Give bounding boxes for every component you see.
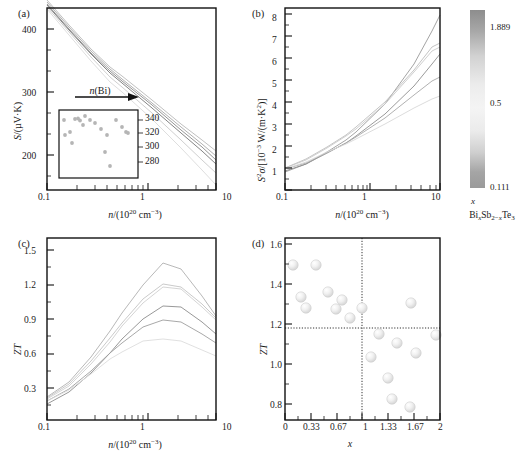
- colorbar-variable-label: x: [471, 196, 475, 206]
- figure-canvas: (a) S/(µV·K) 400 300 200 0.1 1 10 n/(102…: [0, 0, 532, 460]
- panel-a-yticks: [47, 29, 54, 155]
- panel-a-xticks: [47, 183, 216, 190]
- colorbar-bottom-label: 0.111: [490, 182, 510, 192]
- panel-a-curves: [47, 0, 216, 185]
- panel-a-inset-points: [62, 114, 130, 168]
- panel-b-xticks: [285, 183, 440, 190]
- panel-a-inset-ticks: [138, 120, 143, 162]
- panel-c-xticks-minor: [77, 415, 208, 420]
- panel-b-plot: [250, 0, 450, 230]
- colorbar-panel: 1.889 0.5 0.111 x BixSb2−xTe3: [450, 0, 532, 230]
- colorbar-top-label: 1.889: [490, 22, 510, 32]
- panel-c-plot: [0, 230, 250, 460]
- colorbar-formula: BixSb2−xTe3: [452, 210, 532, 222]
- panel-b-xticks-minor: [311, 185, 436, 190]
- panel-c-yticks: [47, 250, 54, 388]
- panel-b-curves: [285, 15, 440, 172]
- panel-a-xticks-minor: [77, 185, 208, 190]
- panel-d-xticks: [285, 413, 440, 420]
- panel-b: (b) S2σ/[10−3 W/(m·K2)] 8 7 6 5 4 3 2 1 …: [250, 0, 450, 230]
- curve-a-5: [47, 7, 216, 173]
- panel-a-inset-ytick-340: 340: [145, 113, 159, 123]
- panel-d-points: [288, 260, 441, 412]
- panel-a-inset-ytick-280: 280: [145, 156, 159, 166]
- panel-a-inset-ytick-320: 320: [145, 127, 159, 137]
- colorbar-mid-label: 0.5: [490, 98, 501, 108]
- panel-c: (c) ZT 1.5 1.2 0.9 0.6 0.3 0.1 1 10 n/(1…: [0, 230, 250, 460]
- panel-c-frame: [47, 238, 216, 420]
- panel-d-plot: [250, 230, 450, 460]
- panel-a-inset-ytick-300: 300: [145, 141, 159, 151]
- panel-c-curves: [47, 263, 216, 404]
- curve-a-3: [47, 4, 216, 160]
- panel-c-xticks: [47, 413, 216, 420]
- panel-a-plot: [0, 0, 250, 230]
- panel-b-yticks: [285, 14, 292, 190]
- curve-a-1: [47, 0, 216, 151]
- panel-a-inset: [59, 93, 143, 178]
- curve-a-2: [47, 2, 216, 156]
- panel-d: (d) ZT 1.6 1.4 1.2 1.0 0.8 0 0.33 0.67 1…: [250, 230, 450, 460]
